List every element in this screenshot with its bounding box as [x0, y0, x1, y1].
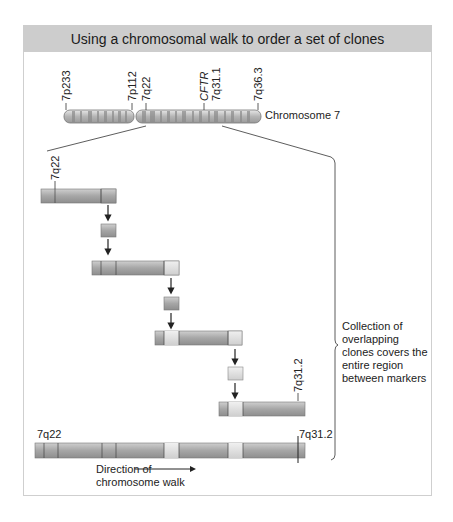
clone-4 — [219, 393, 305, 416]
clone-3 — [155, 331, 242, 345]
clone-4-marker: 7q31.2 — [292, 358, 304, 392]
marker-cftr: CFTR — [198, 72, 210, 101]
marker-7q31-1: 7q31.1 — [210, 67, 222, 101]
clone-1-marker: 7q22 — [49, 156, 61, 180]
contig-left-marker: 7q22 — [37, 428, 61, 440]
end-probe-3 — [228, 367, 243, 380]
chromosome-7 — [64, 103, 261, 123]
zoom-lines — [47, 126, 331, 157]
direction-label: Direction of chromosome walk — [96, 463, 185, 489]
marker-7q22: 7q22 — [140, 77, 152, 101]
direction-line-2: chromosome walk — [96, 476, 185, 489]
contig-right-marker: 7q31.2 — [299, 428, 333, 440]
curly-brace — [331, 157, 338, 460]
contig-map — [35, 436, 305, 463]
marker-7p112: 7p112 — [126, 71, 138, 101]
marker-7p233: 7p233 — [60, 70, 72, 101]
clone-2 — [92, 261, 179, 275]
marker-7q36-3: 7q36.3 — [252, 67, 264, 101]
end-probe-2 — [164, 297, 179, 310]
chromosome-label: Chromosome 7 — [265, 109, 340, 121]
brace-note: Collection of overlapping clones covers … — [342, 320, 432, 385]
direction-line-1: Direction of — [96, 463, 185, 476]
clone-1 — [41, 181, 116, 203]
end-probe-1 — [101, 224, 116, 237]
